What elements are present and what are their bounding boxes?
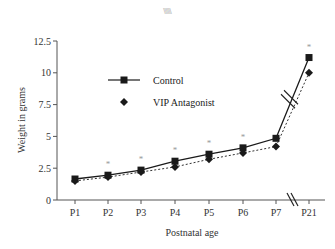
legend-vip-marker [120, 98, 128, 106]
y-tick-label: 2.5 [39, 163, 52, 174]
significance-asterisk: * [106, 159, 111, 169]
x-tick-label: P5 [204, 207, 215, 218]
line-chart: \\\\\\ 02.557.51012.5 P1P2P3P4P5P6P7P21 … [0, 0, 335, 249]
legend: Control VIP Antagonist [108, 75, 215, 108]
x-tick-label: P1 [70, 207, 81, 218]
x-tick-label: P7 [271, 207, 282, 218]
x-tick-label: P4 [170, 207, 181, 218]
legend-vip-label: VIP Antagonist [153, 97, 215, 108]
x-ticks: P1P2P3P4P5P6P7P21 [70, 200, 317, 218]
legend-control-marker [121, 77, 128, 84]
x-tick-label: P6 [238, 207, 249, 218]
axes [57, 41, 325, 206]
vip-antagonist-marker [305, 69, 313, 77]
vip-antagonist-marker [272, 143, 280, 151]
y-tick-label: 12.5 [34, 36, 52, 47]
y-axis-title: Weight in grams [16, 87, 27, 153]
control-marker [273, 135, 280, 142]
significance-asterisk: * [241, 132, 246, 142]
y-ticks: 02.557.51012.5 [34, 36, 58, 206]
y-tick-label: 7.5 [39, 99, 52, 110]
y-tick-label: 0 [46, 195, 51, 206]
x-tick-label: P3 [136, 207, 147, 218]
legend-control-label: Control [153, 75, 184, 86]
y-tick-label: 10 [41, 67, 51, 78]
significance-asterisk: * [139, 154, 144, 164]
x-tick-label: P2 [103, 207, 114, 218]
significance-asterisk: * [307, 42, 312, 52]
x-axis-title: Postnatal age [165, 227, 219, 238]
y-tick-label: 5 [46, 131, 51, 142]
header-mark: \\\\\\ [163, 7, 172, 16]
significance-asterisk: * [173, 145, 178, 155]
x-tick-label: P21 [301, 207, 317, 218]
significance-asterisk: * [207, 138, 212, 148]
control-marker [306, 54, 313, 61]
